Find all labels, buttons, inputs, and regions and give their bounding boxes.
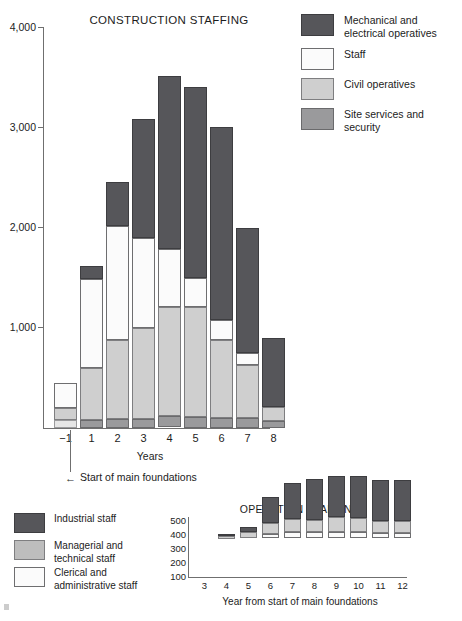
op-legend-item-industrial: Industrial staff [14,513,116,533]
bar-segment-civil-operatives [158,307,181,416]
op-bar-segment-managerial [262,523,279,534]
op-bar-year-11 [372,480,389,538]
bar-segment-civil-operatives [236,365,259,418]
bar-segment-civil-operatives [54,408,77,420]
construction-staffing-chart: CONSTRUCTION STAFFING 1,000 2,000 3,000 … [0,0,462,495]
operation-x-axis [188,577,407,578]
bar-segment-mechanical [132,119,155,237]
op-x-tick-7: 7 [284,580,301,591]
bar-segment-mechanical [80,266,103,279]
bar-segment-staff [106,226,129,340]
op-bar-year-6 [262,497,279,538]
bar-segment-site-services [158,416,181,427]
bar-year-7 [236,228,259,429]
op-x-tick-4: 4 [218,580,235,591]
x-tick--1: −1 [54,432,77,444]
x-tick-4: 4 [158,432,181,444]
bar-segment-site-services [80,420,103,428]
bar-segment-civil-operatives [262,407,285,421]
op-bar-segment-clerical [328,532,345,538]
figure-root: CONSTRUCTION STAFFING 1,000 2,000 3,000 … [0,0,462,621]
bar-segment-mechanical [158,76,181,248]
bar-segment-mechanical [210,127,233,320]
op-bar-segment-industrial [394,480,411,521]
bar-segment-site-services [54,420,77,428]
bar-segment-civil-operatives [184,307,207,417]
bar-year-6 [210,127,233,428]
legend-label-civil: Civil operatives [344,78,415,91]
op-bar-year-8 [306,479,323,538]
bar-segment-staff [236,353,259,365]
op-x-tick-9: 9 [328,580,345,591]
op-bar-year-5 [240,527,257,538]
bar-year-4 [158,76,181,428]
bar-segment-civil-operatives [80,368,103,420]
bar-segment-civil-operatives [210,340,233,418]
legend-item-mechanical: Mechanical andelectrical operatives [301,14,437,40]
legend-label-site-services: Site services andsecurity [344,108,424,134]
legend-swatch-staff-icon [301,48,334,70]
op-bar-segment-industrial [284,483,301,519]
bar-year-3 [132,119,155,428]
op-x-tick-8: 8 [306,580,323,591]
legend-item-staff: Staff [301,48,365,70]
bar-year-2 [106,182,129,428]
op-bar-segment-clerical [350,532,367,538]
bar-year-8 [262,338,285,428]
op-bar-segment-managerial [218,536,235,539]
construction-bars [0,0,290,428]
op-bar-segment-clerical [306,532,323,538]
x-tick-8: 8 [262,432,285,444]
foundation-marker-line [70,430,71,472]
construction-x-axis-label: Years [120,450,180,462]
op-bar-segment-managerial [372,521,389,533]
operation-staffing-chart: OPERATION STAFFING 100 200 300 400 500 [0,495,462,621]
operation-x-axis-label: Year from start of main foundations [200,596,400,607]
op-x-tick-10: 10 [350,580,367,591]
x-tick-3: 3 [132,432,155,444]
op-bar-segment-clerical [284,532,301,538]
op-legend-swatch-industrial-icon [14,513,45,533]
construction-x-axis [43,428,270,429]
bar-segment-staff [132,238,155,328]
op-bar-segment-managerial [328,517,345,532]
bar-segment-civil-operatives [132,328,155,419]
bar-year--1 [54,383,77,428]
op-bar-segment-managerial [306,520,323,532]
op-bar-segment-clerical [394,533,411,538]
op-legend-item-managerial: Managerial andtechnical staff [14,540,123,565]
op-bar-year-7 [284,483,301,539]
op-x-tick-5: 5 [240,580,257,591]
op-x-tick-12: 12 [394,580,411,591]
corner-mark [4,604,9,610]
legend-swatch-civil-icon [301,78,334,100]
bar-segment-staff [80,279,103,368]
bar-segment-staff [158,249,181,307]
bar-segment-mechanical [106,182,129,225]
op-bar-year-9 [328,476,345,538]
op-legend-swatch-clerical-icon [14,567,45,587]
bar-year-5 [184,87,207,428]
legend-swatch-site-services-icon [301,108,334,130]
op-legend-swatch-managerial-icon [14,540,45,560]
op-bar-segment-industrial [350,476,367,518]
x-tick-6: 6 [210,432,233,444]
op-bar-segment-managerial [350,518,367,532]
legend-label-staff: Staff [344,48,365,61]
op-x-tick-3: 3 [196,580,213,591]
op-bar-segment-industrial [262,497,279,523]
op-bar-year-12 [394,480,411,538]
bar-segment-staff [184,278,207,307]
op-bar-segment-industrial [328,476,345,517]
op-bar-segment-industrial [306,479,323,520]
op-bar-year-10 [350,476,367,538]
bar-segment-mechanical [236,228,259,353]
legend-swatch-mechanical-icon [301,14,334,36]
op-bar-segment-clerical [262,534,279,539]
legend-label-mechanical: Mechanical andelectrical operatives [344,14,437,40]
x-tick-1: 1 [80,432,103,444]
bar-year-1 [80,266,103,428]
bar-segment-site-services [132,419,155,428]
op-x-tick-11: 11 [372,580,389,591]
op-legend-label-managerial: Managerial andtechnical staff [54,540,123,565]
